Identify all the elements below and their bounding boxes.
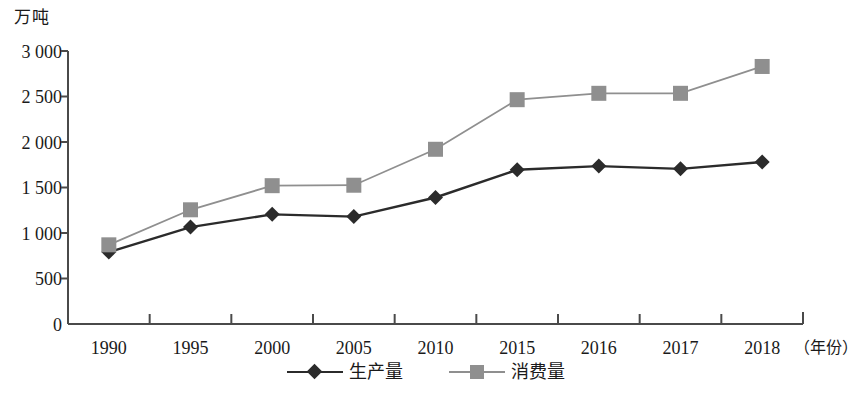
plot-area bbox=[0, 0, 851, 394]
data-point-marker bbox=[346, 209, 361, 224]
x-axis-ticks bbox=[150, 314, 722, 324]
data-point-marker bbox=[673, 86, 688, 101]
diamond-marker-icon bbox=[306, 364, 322, 380]
legend-item-production: 生产量 bbox=[287, 362, 403, 382]
square-marker-icon bbox=[470, 365, 484, 379]
data-point-marker bbox=[591, 86, 606, 101]
chart-legend: 生产量 消费量 bbox=[0, 362, 851, 382]
data-point-marker bbox=[183, 220, 198, 235]
x-tick-label-2010: 2010 bbox=[418, 338, 454, 358]
data-point-marker bbox=[755, 59, 770, 74]
data-point-marker bbox=[510, 92, 525, 107]
data-point-marker bbox=[346, 178, 361, 193]
data-point-marker bbox=[428, 142, 443, 157]
x-tick-label-2017: 2017 bbox=[663, 338, 699, 358]
data-point-marker bbox=[673, 161, 688, 176]
data-point-marker bbox=[101, 237, 116, 252]
y-axis-ticks bbox=[61, 97, 68, 279]
x-tick-label-2016: 2016 bbox=[581, 338, 617, 358]
x-tick-label-2005: 2005 bbox=[336, 338, 372, 358]
legend-label-consumption: 消费量 bbox=[511, 362, 565, 382]
legend-swatch-consumption bbox=[449, 364, 505, 380]
legend-label-production: 生产量 bbox=[349, 362, 403, 382]
data-point-marker bbox=[265, 178, 280, 193]
x-axis-unit-label: （年份） bbox=[794, 338, 851, 358]
data-point-marker bbox=[755, 155, 770, 170]
x-tick-label-2000: 2000 bbox=[254, 338, 290, 358]
series-line-生产量 bbox=[109, 162, 762, 252]
data-point-marker bbox=[265, 207, 280, 222]
series-markers bbox=[101, 59, 769, 260]
x-tick-label-2018: 2018 bbox=[744, 338, 780, 358]
data-point-marker bbox=[591, 159, 606, 174]
data-point-marker bbox=[183, 202, 198, 217]
line-chart: 万吨 3 000 2 500 2 000 1 500 1 000 500 0 1… bbox=[0, 0, 851, 394]
x-tick-label-2015: 2015 bbox=[499, 338, 535, 358]
legend-item-consumption: 消费量 bbox=[449, 362, 565, 382]
x-tick-label-1995: 1995 bbox=[173, 338, 209, 358]
data-point-marker bbox=[428, 190, 443, 205]
data-point-marker bbox=[510, 162, 525, 177]
series-lines bbox=[109, 66, 762, 252]
legend-swatch-production bbox=[287, 364, 343, 380]
x-tick-label-1990: 1990 bbox=[91, 338, 127, 358]
axis-lines bbox=[61, 51, 803, 324]
